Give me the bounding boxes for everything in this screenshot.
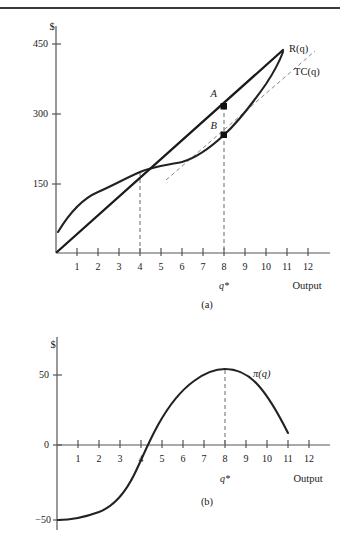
panel-a-xtick-label-4: 4 — [138, 261, 143, 272]
panel-b-xtick-label-11: 11 — [283, 453, 293, 464]
panel-a-xtick-label-9: 9 — [243, 261, 248, 272]
panel-a-svg: 450 300 150 $ 1 2 3 4 5 6 7 8 9 10 11 12… — [0, 0, 340, 315]
panel-a-x-axis-title: Output — [292, 280, 321, 291]
panel-a-revenue-curve-label: R(q) — [289, 43, 309, 55]
panel-a-point-b-label: B — [211, 120, 218, 131]
panel-a-xtick-label-11: 11 — [282, 261, 292, 272]
panel-b-svg-main: 50 0 −50 $ 1 2 3 4 5 6 7 8 9 10 11 12 q*… — [0, 315, 340, 553]
panel-a-x-ticks — [77, 248, 308, 256]
panel-a-revenue-line — [57, 50, 283, 252]
panel-b-xtick-label-3: 3 — [118, 453, 123, 464]
panel-a-point-a-marker — [221, 103, 228, 110]
panel-b-xtick-label-8: 8 — [223, 453, 228, 464]
panel-a-ytick-label-300: 300 — [33, 108, 48, 119]
panel-b-caption: (b) — [201, 496, 214, 508]
panel-a-xtick-label-2: 2 — [96, 261, 101, 272]
panel-b-xtick-label-2: 2 — [97, 453, 102, 464]
panel-a-q-star-label: q* — [219, 280, 229, 291]
panel-a-revenue-cost-chart: 450 300 150 $ 1 2 3 4 5 6 7 8 9 10 11 12… — [0, 0, 340, 315]
panel-a-ytick-label-450: 450 — [33, 38, 48, 49]
panel-b-y-axis-title: $ — [50, 339, 55, 350]
panel-b-profit-curve-label: π(q) — [253, 368, 271, 380]
panel-b-xtick-label-1: 1 — [76, 453, 81, 464]
panel-a-xtick-label-8: 8 — [222, 261, 227, 272]
panel-a-xtick-label-1: 1 — [75, 261, 80, 272]
panel-b-profit-chart: 50 0 −50 $ 1 2 3 4 5 6 7 8 9 10 11 12 q*… — [0, 315, 340, 553]
panel-b-xtick-label-10: 10 — [262, 453, 272, 464]
panel-b-x-ticks — [78, 440, 309, 448]
panel-a-y-axis-title: $ — [49, 21, 54, 32]
panel-a-caption: (a) — [201, 299, 213, 311]
panel-a-point-b-marker — [221, 132, 228, 139]
panel-b-x-axis-title: Output — [293, 473, 322, 484]
panel-b-xtick-label-7: 7 — [202, 453, 207, 464]
panel-b-ytick-label-neg50: −50 — [35, 514, 51, 525]
panel-a-xtick-label-12: 12 — [303, 261, 313, 272]
panel-b-ytick-label-0: 0 — [44, 439, 49, 450]
panel-a-xtick-label-5: 5 — [159, 261, 164, 272]
panel-b-q-star-label: q* — [220, 473, 230, 484]
figure-root: 450 300 150 $ 1 2 3 4 5 6 7 8 9 10 11 12… — [0, 0, 340, 553]
panel-a-ytick-label-150: 150 — [33, 178, 48, 189]
panel-a-total-cost-curve-label: TC(q) — [294, 66, 320, 78]
panel-b-xtick-label-5: 5 — [160, 453, 165, 464]
panel-b-xtick-label-12: 12 — [304, 453, 314, 464]
panel-a-xtick-label-6: 6 — [180, 261, 185, 272]
panel-a-xtick-label-3: 3 — [117, 261, 122, 272]
panel-a-xtick-label-10: 10 — [261, 261, 271, 272]
panel-b-xtick-label-6: 6 — [181, 453, 186, 464]
panel-b-xtick-label-9: 9 — [244, 453, 249, 464]
panel-b-ytick-label-50: 50 — [39, 369, 49, 380]
panel-a-xtick-label-7: 7 — [201, 261, 206, 272]
panel-a-point-a-label: A — [210, 88, 218, 99]
